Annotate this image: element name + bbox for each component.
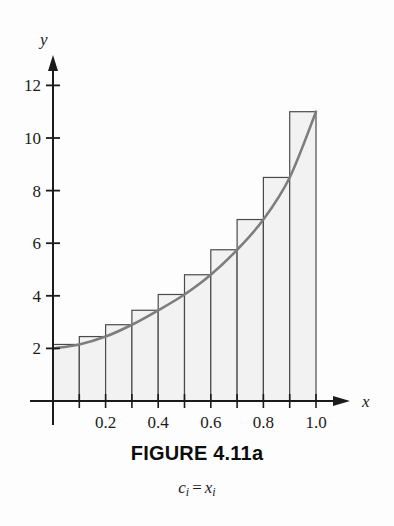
rectangle-bar (79, 337, 105, 401)
subcaption-equals: = (189, 478, 205, 497)
x-axis-label: x (361, 392, 370, 411)
y-tick-label: 12 (24, 76, 41, 95)
y-tick-label: 8 (33, 182, 42, 201)
figure-container: 24681012 0.20.40.60.81.0 y x FIGURE 4.11… (0, 0, 394, 526)
y-axis-label: y (38, 30, 48, 49)
x-tick-label: 0.6 (200, 413, 221, 430)
x-tick-label: 0.4 (148, 413, 170, 430)
x-tick-label: 1.0 (305, 413, 326, 430)
figure-title: FIGURE 4.11a (0, 442, 394, 465)
y-tick-label: 2 (33, 339, 42, 358)
rectangle-bar (53, 344, 79, 401)
y-axis-arrowhead (48, 55, 58, 71)
figure-subcaption: ci=xi (0, 478, 394, 500)
x-tick-label: 0.2 (95, 413, 116, 430)
y-tick-label: 4 (33, 287, 42, 306)
bars-group (53, 112, 316, 401)
rectangle-bar (290, 112, 316, 401)
y-ticks-group: 24681012 (24, 76, 60, 358)
rectangle-bar (158, 294, 184, 401)
rectangle-bar (263, 177, 289, 401)
y-tick-label: 6 (33, 234, 42, 253)
x-axis-arrowhead (333, 396, 350, 406)
rectangle-approximation-chart: 24681012 0.20.40.60.81.0 y x (0, 0, 394, 430)
subcaption-x-subscript: i (212, 485, 215, 499)
y-tick-label: 10 (24, 129, 41, 148)
subcaption-c: c (178, 478, 186, 497)
rectangle-bar (185, 275, 211, 401)
x-tick-label: 0.8 (253, 413, 274, 430)
